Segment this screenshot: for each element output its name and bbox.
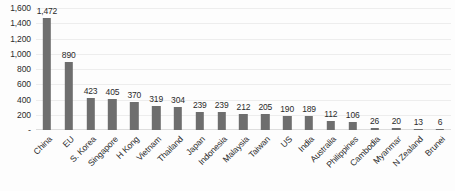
y-axis-tick-label: 200 [17, 110, 31, 119]
y-axis: -2004006008001,0001,2001,4001,600 [0, 8, 34, 130]
bar[interactable] [65, 62, 73, 130]
bar[interactable] [108, 99, 116, 130]
bar-value-label: 212 [237, 103, 251, 112]
bar[interactable] [43, 18, 51, 130]
bar-value-label: 26 [370, 117, 379, 126]
bar[interactable] [436, 129, 444, 131]
bar[interactable] [152, 106, 160, 130]
bar-value-label: 890 [62, 51, 76, 60]
x-axis-category-label: US [279, 134, 294, 149]
bar-value-label: 304 [171, 96, 185, 105]
bar-group[interactable]: 106 [342, 8, 364, 130]
plot-area: 1,47289042340537031930423923921220519018… [36, 8, 451, 130]
x-axis-label-slot: Singapore [102, 131, 124, 191]
bar-value-label: 370 [127, 91, 141, 100]
bar-group[interactable]: 205 [254, 8, 276, 130]
bar[interactable] [261, 114, 269, 130]
bar-value-label: 190 [280, 105, 294, 114]
bar[interactable] [217, 112, 225, 130]
bar-group[interactable]: 112 [320, 8, 342, 130]
bar-group[interactable]: 212 [233, 8, 255, 130]
y-axis-tick-label: - [28, 126, 31, 135]
bar[interactable] [196, 112, 204, 130]
y-axis-tick-label: 1,400 [10, 19, 31, 28]
bar[interactable] [174, 107, 182, 130]
bar-value-label: 405 [106, 88, 120, 97]
x-axis-category-label: China [31, 134, 54, 157]
bar-value-label: 106 [346, 111, 360, 120]
bar-value-label: 205 [258, 103, 272, 112]
bar-value-label: 239 [215, 101, 229, 110]
bar-value-label: 1,472 [37, 7, 58, 16]
bar[interactable] [414, 129, 422, 131]
y-axis-tick-label: 1,200 [10, 34, 31, 43]
bar[interactable] [327, 121, 335, 130]
bar-group[interactable]: 190 [276, 8, 298, 130]
bar[interactable] [392, 128, 400, 130]
x-axis-category-label: EU [61, 134, 76, 149]
y-axis-tick-label: 400 [17, 95, 31, 104]
bar[interactable] [86, 98, 94, 130]
bar-group[interactable]: 13 [407, 8, 429, 130]
bar-group[interactable]: 370 [123, 8, 145, 130]
bar-group[interactable]: 26 [364, 8, 386, 130]
x-axis-label-slot: N Zealand [407, 131, 429, 191]
bar-value-label: 319 [149, 95, 163, 104]
bar-chart: -2004006008001,0001,2001,4001,600 1,4728… [0, 0, 455, 191]
bar[interactable] [283, 116, 291, 130]
bar-group[interactable]: 405 [102, 8, 124, 130]
bar-group[interactable]: 319 [145, 8, 167, 130]
bar-value-label: 112 [324, 110, 337, 119]
x-axis-label-slot: US [276, 131, 298, 191]
bar[interactable] [239, 114, 247, 130]
x-axis-label-slot: China [36, 131, 58, 191]
bar[interactable] [130, 102, 138, 130]
bar-value-label: 6 [438, 118, 443, 127]
bar-value-label: 423 [84, 87, 98, 96]
bar-group[interactable]: 1,472 [36, 8, 58, 130]
bar[interactable] [348, 122, 356, 130]
y-axis-tick-label: 600 [17, 80, 31, 89]
bar-group[interactable]: 239 [211, 8, 233, 130]
x-axis-label-slot: Malaysia [233, 131, 255, 191]
bar-value-label: 239 [193, 101, 207, 110]
bar-group[interactable]: 239 [189, 8, 211, 130]
bar-value-label: 20 [392, 117, 401, 126]
bar-value-label: 13 [414, 118, 423, 127]
y-axis-tick-label: 800 [17, 65, 31, 74]
bar-group[interactable]: 304 [167, 8, 189, 130]
bar-group[interactable]: 890 [58, 8, 80, 130]
y-axis-tick-label: 1,600 [10, 4, 31, 13]
bar-group[interactable]: 189 [298, 8, 320, 130]
x-axis-labels: ChinaEUS. KoreaSingaporeH KongVietnamTha… [36, 131, 451, 191]
x-axis-label-slot: Taiwan [254, 131, 276, 191]
x-axis-label-slot: Brunei [429, 131, 451, 191]
bar[interactable] [305, 116, 313, 130]
y-axis-tick-label: 1,000 [10, 49, 31, 58]
bar-group[interactable]: 20 [385, 8, 407, 130]
bar-group[interactable]: 423 [80, 8, 102, 130]
x-axis-label-slot: Thailand [167, 131, 189, 191]
bar-value-label: 189 [302, 105, 316, 114]
bar-group[interactable]: 6 [429, 8, 451, 130]
bar[interactable] [370, 128, 378, 130]
